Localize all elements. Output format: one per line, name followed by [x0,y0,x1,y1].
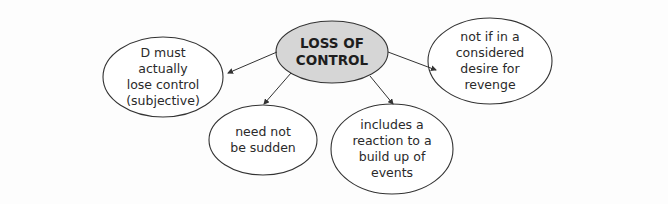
node-buildup-label: includes a reaction to a build up of eve… [352,117,431,181]
node-revenge: not if in a considered desire for reveng… [428,18,552,104]
node-revenge-label: not if in a considered desire for reveng… [456,29,525,93]
node-subjective-label: D must actually lose control (subjective… [126,45,200,109]
mind-map-diagram: LOSS OF CONTROL D must actually lose con… [0,0,668,204]
center-node: LOSS OF CONTROL [276,21,388,83]
center-node-label: LOSS OF CONTROL [296,35,368,69]
node-subjective: D must actually lose control (subjective… [103,37,223,117]
node-sudden: need not be sudden [209,105,317,175]
connector-subjective [228,52,277,73]
node-sudden-label: need not be sudden [230,124,296,156]
node-buildup: includes a reaction to a build up of eve… [331,104,453,194]
